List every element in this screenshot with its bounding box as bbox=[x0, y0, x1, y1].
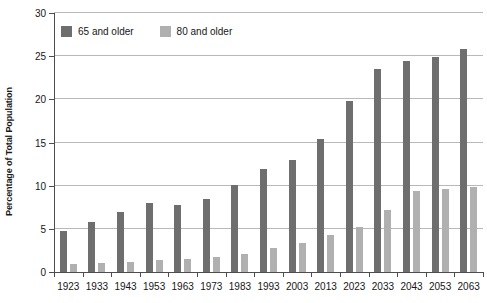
bar-80-and-older-1973 bbox=[213, 257, 220, 272]
x-tick-label-2013: 2013 bbox=[315, 281, 337, 292]
bar-80-and-older-1923 bbox=[70, 264, 77, 272]
bar-80-and-older-2043 bbox=[413, 191, 420, 272]
legend-item-80-and-older: 80 and older bbox=[160, 26, 233, 37]
bar-chart-figure: Percentage of Total Population 051015202… bbox=[0, 0, 487, 303]
bar-group-2053 bbox=[426, 13, 455, 272]
x-tick-label-2043: 2043 bbox=[400, 281, 422, 292]
x-tick-label-2063: 2063 bbox=[458, 281, 480, 292]
x-tick-label-1923: 1923 bbox=[57, 281, 79, 292]
bar-80-and-older-1993 bbox=[270, 248, 277, 272]
chart-legend: 65 and older80 and older bbox=[61, 26, 232, 37]
x-tick-label-2053: 2053 bbox=[429, 281, 451, 292]
legend-label-65-and-older: 65 and older bbox=[78, 26, 134, 37]
x-tick-label-1973: 1973 bbox=[200, 281, 222, 292]
bars-layer bbox=[54, 13, 483, 272]
bar-65-and-older-1943 bbox=[117, 212, 124, 272]
x-tick-label-2003: 2003 bbox=[286, 281, 308, 292]
bar-65-and-older-1963 bbox=[174, 205, 181, 272]
x-tick-label-1993: 1993 bbox=[257, 281, 279, 292]
bar-80-and-older-1933 bbox=[98, 263, 105, 272]
x-tick-label-1983: 1983 bbox=[229, 281, 251, 292]
bar-group-1953 bbox=[140, 13, 169, 272]
bar-group-2003 bbox=[283, 13, 312, 272]
bar-group-1923 bbox=[54, 13, 83, 272]
bar-65-and-older-1983 bbox=[231, 185, 238, 272]
bar-65-and-older-2063 bbox=[460, 49, 467, 272]
bar-group-2033 bbox=[369, 13, 398, 272]
bar-group-1983 bbox=[226, 13, 255, 272]
bar-group-1933 bbox=[83, 13, 112, 272]
bar-65-and-older-2013 bbox=[317, 139, 324, 272]
bar-65-and-older-2043 bbox=[403, 61, 410, 272]
bar-group-2043 bbox=[397, 13, 426, 272]
bar-80-and-older-2063 bbox=[470, 187, 477, 272]
bar-65-and-older-2003 bbox=[289, 160, 296, 272]
x-tick-label-1963: 1963 bbox=[172, 281, 194, 292]
x-tick-label-2033: 2033 bbox=[372, 281, 394, 292]
bar-group-2013 bbox=[311, 13, 340, 272]
bar-group-2063 bbox=[454, 13, 483, 272]
bar-80-and-older-2053 bbox=[442, 189, 449, 272]
legend-swatch-65-and-older bbox=[61, 26, 72, 37]
legend-item-65-and-older: 65 and older bbox=[61, 26, 134, 37]
bar-65-and-older-1933 bbox=[88, 222, 95, 272]
bar-group-1973 bbox=[197, 13, 226, 272]
bar-80-and-older-1983 bbox=[241, 254, 248, 272]
bar-65-and-older-2033 bbox=[374, 69, 381, 272]
bar-group-2023 bbox=[340, 13, 369, 272]
y-axis-title: Percentage of Total Population bbox=[0, 0, 18, 303]
bar-65-and-older-1953 bbox=[146, 203, 153, 272]
bar-group-1963 bbox=[168, 13, 197, 272]
bar-80-and-older-2013 bbox=[327, 235, 334, 272]
legend-label-80-and-older: 80 and older bbox=[177, 26, 233, 37]
x-axis-line bbox=[54, 272, 484, 273]
bar-group-1993 bbox=[254, 13, 283, 272]
x-tick-label-2023: 2023 bbox=[343, 281, 365, 292]
bar-65-and-older-1923 bbox=[60, 231, 67, 272]
bar-80-and-older-1963 bbox=[184, 259, 191, 272]
x-tick-label-1943: 1943 bbox=[114, 281, 136, 292]
bar-65-and-older-1993 bbox=[260, 169, 267, 272]
x-tick-label-1953: 1953 bbox=[143, 281, 165, 292]
bar-group-1943 bbox=[111, 13, 140, 272]
bar-80-and-older-2033 bbox=[384, 210, 391, 272]
bar-80-and-older-1953 bbox=[156, 260, 163, 272]
legend-swatch-80-and-older bbox=[160, 26, 171, 37]
bar-65-and-older-2053 bbox=[432, 57, 439, 272]
bar-80-and-older-2003 bbox=[299, 243, 306, 272]
bar-80-and-older-1943 bbox=[127, 262, 134, 272]
x-tick-label-1933: 1933 bbox=[86, 281, 108, 292]
bar-65-and-older-2023 bbox=[346, 101, 353, 272]
bar-65-and-older-1973 bbox=[203, 199, 210, 272]
bar-80-and-older-2023 bbox=[356, 227, 363, 272]
